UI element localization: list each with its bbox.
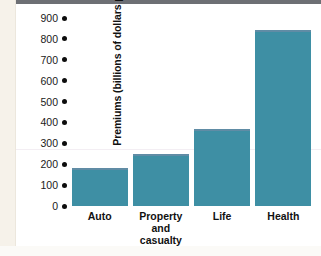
y-axis-tick-label: 700 — [32, 54, 62, 66]
bar-top-edge — [72, 168, 128, 170]
y-axis-tick-label: 500 — [32, 96, 62, 108]
plot-area: Premiums (billions of dollars per year) … — [69, 18, 314, 206]
y-axis-tick: 500 — [32, 96, 69, 108]
y-axis-tick-marker-icon — [62, 78, 67, 83]
y-axis-tick: 100 — [32, 179, 69, 191]
y-axis-tick: 0 — [32, 200, 69, 212]
y-axis-tick-label: 0 — [32, 200, 62, 212]
y-axis-tick-marker-icon — [62, 99, 67, 104]
x-axis-label: Life — [192, 210, 253, 222]
x-axis-label-line: and casualty — [130, 222, 191, 246]
y-axis-tick: 600 — [32, 75, 69, 87]
x-axis-label: Auto — [69, 210, 130, 222]
x-axis-label: Health — [253, 210, 314, 222]
y-axis-tick-marker-icon — [62, 36, 67, 41]
chart-figure: Premiums (billions of dollars per year) … — [0, 0, 321, 256]
y-axis-tick-label: 400 — [32, 116, 62, 128]
y-axis-tick-marker-icon — [62, 141, 67, 146]
y-axis-tick-marker-icon — [62, 120, 67, 125]
y-axis-tick-marker-icon — [62, 16, 67, 21]
y-axis-tick: 800 — [32, 33, 69, 45]
y-axis-tick: 700 — [32, 54, 69, 66]
y-axis-tick-label: 300 — [32, 137, 62, 149]
y-axis-tick-label: 100 — [32, 179, 62, 191]
bar — [194, 129, 250, 206]
y-axis-tick: 300 — [32, 137, 69, 149]
bar-top-edge — [194, 129, 250, 131]
page-top-border — [0, 0, 321, 4]
x-axis-label-line: Auto — [69, 210, 130, 222]
page-bottom-band — [0, 246, 321, 256]
bar-top-edge — [133, 154, 189, 156]
y-axis-tick: 400 — [32, 116, 69, 128]
page-left-margin-edge — [15, 0, 16, 256]
y-axis-tick-marker-icon — [62, 183, 67, 188]
x-axis-label-line: Life — [192, 210, 253, 222]
y-axis-tick-marker-icon — [62, 204, 67, 209]
x-axis-label-line: Health — [253, 210, 314, 222]
y-axis-title: Premiums (billions of dollars per year) — [111, 0, 123, 152]
y-axis-tick-marker-icon — [62, 162, 67, 167]
y-axis-tick: 200 — [32, 158, 69, 170]
y-axis-tick-label: 900 — [32, 12, 62, 24]
y-axis-tick-label: 600 — [32, 75, 62, 87]
bar — [133, 154, 189, 206]
y-axis-tick-label: 800 — [32, 33, 62, 45]
x-axis-label-line: Property — [130, 210, 191, 222]
y-axis-tick-label: 200 — [32, 158, 62, 170]
y-axis-tick-marker-icon — [62, 57, 67, 62]
page-left-margin-band — [0, 0, 15, 256]
bar — [255, 30, 311, 207]
bar — [72, 168, 128, 206]
x-axis-label: Propertyand casualty — [130, 210, 191, 246]
bar-top-edge — [255, 30, 311, 32]
y-axis-tick: 900 — [32, 12, 69, 24]
